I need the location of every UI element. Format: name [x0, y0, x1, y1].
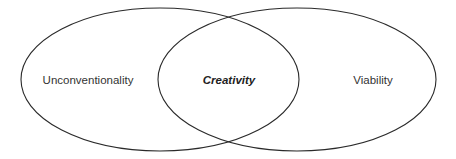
intersection-creativity-label: Creativity: [203, 74, 256, 86]
set-unconventionality-label: Unconventionality: [43, 74, 134, 86]
set-viability-ellipse: [158, 8, 436, 151]
set-viability-label: Viability: [353, 74, 393, 86]
venn-diagram: Unconventionality Creativity Viability: [0, 0, 456, 159]
